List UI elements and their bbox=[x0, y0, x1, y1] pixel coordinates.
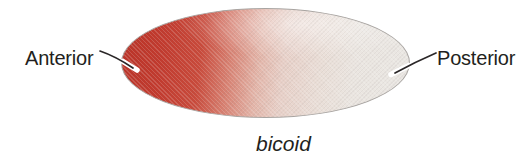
anterior-label: Anterior bbox=[25, 48, 93, 68]
gene-name-label: bicoid bbox=[256, 133, 311, 154]
figure-canvas: Anterior Posterior bicoid bbox=[0, 0, 524, 160]
embryo-gradient-ellipse bbox=[121, 8, 410, 118]
posterior-label: Posterior bbox=[437, 48, 515, 68]
